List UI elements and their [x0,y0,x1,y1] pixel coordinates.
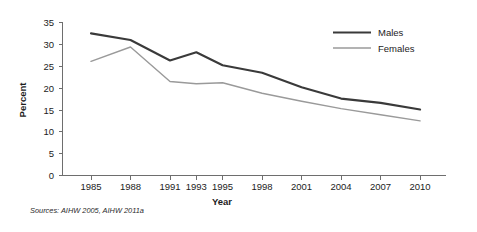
x-tick-label: 1998 [252,181,273,192]
y-tick-label: 15 [43,105,54,116]
x-tick-label: 2001 [291,181,312,192]
line-chart: 35 30 25 20 15 10 5 0 Percent 1985 [0,0,477,232]
legend-label-males: Males [378,27,404,38]
source-note: Sources: AIHW 2005, AIHW 2011a [30,206,144,215]
x-tick-label: 2007 [370,181,391,192]
x-axis-title: Year [212,196,232,207]
x-tick-label: 2004 [331,181,352,192]
x-axis-tick-labels: 1985 1988 1991 1993 1995 1998 2001 2004 … [80,181,430,192]
y-tick-label: 35 [43,17,54,28]
x-tick-label: 2010 [410,181,431,192]
y-tick-label: 0 [49,170,54,181]
y-tick-label: 30 [43,39,54,50]
x-tick-label: 1993 [186,181,207,192]
chart-figure: 35 30 25 20 15 10 5 0 Percent 1985 [0,0,477,232]
x-tick-label: 1991 [159,181,180,192]
y-tick-label: 10 [43,126,54,137]
y-tick-label: 25 [43,61,54,72]
x-tick-label: 1988 [120,181,141,192]
legend-label-females: Females [378,43,415,54]
x-tick-label: 1995 [212,181,233,192]
y-axis-title: Percent [17,82,28,118]
x-tick-label: 1985 [80,181,101,192]
y-tick-label: 20 [43,83,54,94]
chart-background [0,0,477,232]
y-tick-label: 5 [49,148,54,159]
